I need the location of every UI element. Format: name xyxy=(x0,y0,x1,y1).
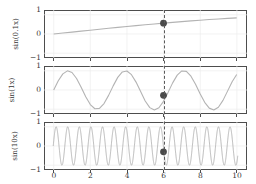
xtick-mark xyxy=(53,58,54,61)
xtick-mark xyxy=(200,58,201,61)
xtick-mark xyxy=(90,58,91,61)
plot-area-panel-2 xyxy=(44,122,247,170)
ytick-group-panel-2: 1 0 −1 xyxy=(20,122,41,170)
xtick-label: 0 xyxy=(44,172,64,180)
ytick-label: 0 xyxy=(23,142,41,150)
xtick-label: 10 xyxy=(227,172,247,180)
xtick-label: 8 xyxy=(190,172,210,180)
subplot-sin-10x xyxy=(44,122,247,170)
xtick-mark xyxy=(236,114,237,117)
ylabel-panel-0: sin(0.1x) xyxy=(0,10,14,58)
ytick-label: 1 xyxy=(23,118,41,126)
ytick-label: −1 xyxy=(23,166,41,174)
ytick-group-panel-0: 1 0 −1 xyxy=(20,10,41,58)
subplot-sin-1x xyxy=(44,66,247,114)
ylabel-panel-2: sin(10x) xyxy=(0,122,14,170)
xtick-label: 2 xyxy=(80,172,100,180)
ytick-group-panel-1: 1 0 −1 xyxy=(20,66,41,114)
plot-area-panel-1 xyxy=(44,66,247,114)
ytick-label: 1 xyxy=(23,6,41,14)
xtick-label: 4 xyxy=(117,172,137,180)
xtick-mark xyxy=(200,114,201,117)
vertical-reference-line-x6 xyxy=(164,10,165,170)
ytick-label: 0 xyxy=(23,30,41,38)
subplot-sin-0-1x xyxy=(44,10,247,58)
xtick-mark xyxy=(127,114,128,117)
ytick-label: 0 xyxy=(23,86,41,94)
plot-area-panel-0 xyxy=(44,10,247,58)
figure-canvas: sin(0.1x) 1 0 −1 xyxy=(0,0,256,184)
xtick-mark xyxy=(53,114,54,117)
xtick-mark xyxy=(236,58,237,61)
xtick-mark xyxy=(90,114,91,117)
xtick-label: 6 xyxy=(154,172,174,180)
ytick-label: 1 xyxy=(23,62,41,70)
ylabel-panel-1: sin(1x) xyxy=(0,66,14,114)
xtick-mark xyxy=(127,58,128,61)
